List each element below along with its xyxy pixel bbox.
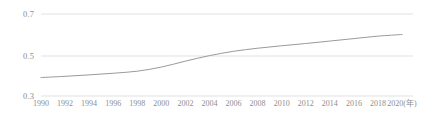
x-axis-tick-0: 1990 — [33, 100, 49, 108]
x-axis-tick-11: 2012 — [298, 100, 314, 108]
x-axis-tick-15: 2020(年) — [387, 100, 416, 108]
x-axis-tick-4: 1998 — [129, 100, 145, 108]
line-chart: 0.7 0.5 0.3 1990199219941996199820002002… — [0, 0, 430, 114]
x-axis-tick-10: 2010 — [274, 100, 290, 108]
x-axis-tick-12: 2014 — [322, 100, 338, 108]
x-axis-tick-6: 2002 — [177, 100, 193, 108]
x-axis-tick-9: 2008 — [250, 100, 266, 108]
x-axis-tick-13: 2016 — [346, 100, 362, 108]
x-axis-tick-1: 1992 — [57, 100, 73, 108]
chart-plot-area — [0, 0, 430, 114]
x-axis-tick-7: 2004 — [202, 100, 218, 108]
y-axis-tick-1: 0.5 — [10, 52, 34, 61]
x-axis-tick-8: 2006 — [226, 100, 242, 108]
x-axis-tick-14: 2018 — [370, 100, 386, 108]
x-axis-tick-2: 1994 — [81, 100, 97, 108]
y-axis-tick-2: 0.3 — [10, 92, 34, 101]
gridlines — [41, 14, 413, 96]
x-axis-tick-3: 1996 — [105, 100, 121, 108]
y-axis-tick-0: 0.7 — [10, 10, 34, 19]
x-axis-tick-5: 2000 — [153, 100, 169, 108]
